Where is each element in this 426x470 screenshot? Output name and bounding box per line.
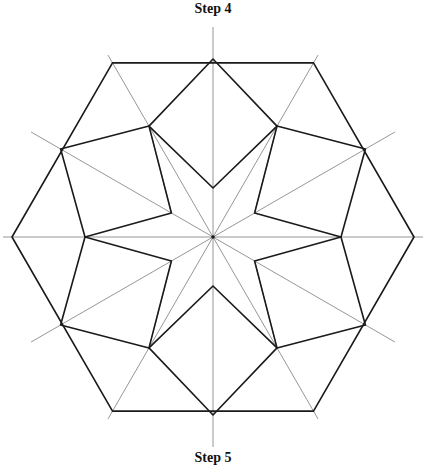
guide-ray: [108, 55, 213, 237]
guide-ray: [31, 237, 213, 342]
guide-ray: [108, 237, 213, 419]
square-motif: [255, 126, 366, 237]
guide-ray: [213, 237, 395, 342]
square-motif: [61, 126, 172, 237]
guide-ray: [213, 132, 395, 237]
center-point: [211, 235, 215, 239]
guide-ray: [31, 132, 213, 237]
square-motif: [255, 237, 366, 348]
guide-ray: [213, 55, 318, 237]
caption-step-5: Step 5: [0, 450, 426, 466]
hexagonal-star-diagram: [0, 0, 426, 470]
guide-ray: [213, 237, 318, 419]
square-motif: [61, 237, 172, 348]
